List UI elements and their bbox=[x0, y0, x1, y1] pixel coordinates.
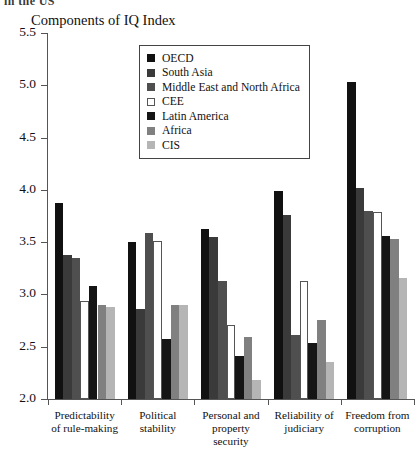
x-tick bbox=[268, 399, 269, 405]
legend-item: South Asia bbox=[147, 66, 302, 81]
x-axis-line bbox=[47, 399, 414, 400]
y-tick-5.0: 5.0 bbox=[41, 85, 48, 86]
bar bbox=[347, 82, 356, 399]
legend-label: CEE bbox=[162, 95, 184, 108]
y-tick-3.5: 3.5 bbox=[41, 242, 48, 243]
y-tick-label: 2.0 bbox=[19, 390, 36, 406]
bar bbox=[171, 305, 180, 399]
bar bbox=[89, 286, 98, 399]
category-label-line: corruption bbox=[341, 422, 414, 435]
chart-title: Components of IQ Index bbox=[31, 12, 176, 29]
bar bbox=[308, 343, 317, 399]
y-tick-label: 2.5 bbox=[19, 338, 36, 354]
legend-swatch-icon bbox=[147, 83, 155, 91]
bar bbox=[300, 281, 309, 399]
bar bbox=[274, 191, 283, 399]
legend-swatch-icon bbox=[147, 112, 155, 120]
legend-swatch-icon bbox=[147, 69, 155, 77]
category-label: Freedom fromcorruption bbox=[341, 409, 414, 435]
legend-item: CEE bbox=[147, 95, 302, 110]
category-label-line: stability bbox=[121, 422, 194, 435]
legend-item: OECD bbox=[147, 51, 302, 66]
bar bbox=[80, 301, 89, 399]
bar bbox=[136, 309, 145, 399]
bar bbox=[317, 320, 326, 399]
chart-page: in the US Components of IQ Index 5.55.04… bbox=[0, 0, 419, 460]
category-label-line: judiciary bbox=[268, 422, 341, 435]
legend-label: OECD bbox=[162, 52, 194, 65]
legend-item: CIS bbox=[147, 138, 302, 153]
x-tick bbox=[341, 399, 342, 405]
bar bbox=[106, 307, 115, 399]
legend-label: South Asia bbox=[162, 66, 213, 79]
bar-group bbox=[341, 33, 414, 399]
legend-label: Africa bbox=[162, 124, 192, 137]
legend-swatch-icon bbox=[147, 98, 155, 106]
bar bbox=[291, 335, 300, 399]
bar bbox=[201, 229, 210, 399]
category-label: Reliability ofjudiciary bbox=[268, 409, 341, 435]
bar bbox=[399, 278, 408, 399]
legend-label: CIS bbox=[162, 139, 180, 152]
y-tick-4.0: 4.0 bbox=[41, 190, 48, 191]
category-label-line: Political bbox=[121, 409, 194, 422]
category-label-line: of rule-making bbox=[48, 422, 121, 435]
y-tick-4.5: 4.5 bbox=[41, 138, 48, 139]
y-tick-2.0: 2.0 bbox=[41, 399, 48, 400]
legend-label: Middle East and North Africa bbox=[162, 81, 300, 94]
bar bbox=[98, 305, 107, 399]
y-tick-label: 3.5 bbox=[19, 233, 36, 249]
bar bbox=[373, 212, 382, 399]
y-tick-label: 4.5 bbox=[19, 129, 36, 145]
y-tick-2.5: 2.5 bbox=[41, 347, 48, 348]
bar bbox=[283, 215, 292, 399]
y-tick-3.0: 3.0 bbox=[41, 294, 48, 295]
legend-swatch-icon bbox=[147, 127, 155, 135]
legend-item: Africa bbox=[147, 124, 302, 139]
bar bbox=[55, 203, 64, 399]
bar bbox=[227, 325, 236, 399]
bar bbox=[162, 339, 171, 399]
legend-item: Latin America bbox=[147, 109, 302, 124]
category-label: Politicalstability bbox=[121, 409, 194, 435]
category-label-line: property security bbox=[194, 422, 267, 448]
bar bbox=[153, 241, 162, 399]
category-label: Personal andproperty security bbox=[194, 409, 267, 448]
bar bbox=[326, 362, 335, 399]
bar bbox=[72, 258, 81, 399]
bar bbox=[209, 237, 218, 399]
y-tick-label: 5.0 bbox=[19, 76, 36, 92]
bar bbox=[382, 236, 391, 399]
y-tick-5.5: 5.5 bbox=[41, 33, 48, 34]
legend-swatch-icon bbox=[147, 141, 155, 149]
y-tick-label: 4.0 bbox=[19, 181, 36, 197]
y-tick-label: 3.0 bbox=[19, 285, 36, 301]
bar bbox=[63, 255, 72, 399]
bar bbox=[244, 337, 253, 399]
bar bbox=[145, 233, 154, 399]
x-tick bbox=[194, 399, 195, 405]
category-label-line: Personal and bbox=[194, 409, 267, 422]
legend-swatch-icon bbox=[147, 54, 155, 62]
category-label-line: Freedom from bbox=[341, 409, 414, 422]
x-tick bbox=[121, 399, 122, 405]
bar-group bbox=[48, 33, 121, 399]
chart-legend: OECDSouth AsiaMiddle East and North Afri… bbox=[139, 45, 310, 159]
category-label-line: Predictability bbox=[48, 409, 121, 422]
x-tick bbox=[414, 399, 415, 405]
bar bbox=[390, 239, 399, 399]
clipped-page-header: in the US bbox=[4, 0, 55, 6]
legend-item: Middle East and North Africa bbox=[147, 80, 302, 95]
category-label-line: Reliability of bbox=[268, 409, 341, 422]
bar bbox=[179, 305, 188, 399]
bar bbox=[128, 242, 137, 399]
bar bbox=[252, 380, 261, 399]
bar bbox=[218, 281, 227, 399]
x-tick bbox=[48, 399, 49, 405]
bar bbox=[364, 211, 373, 399]
bar bbox=[356, 188, 365, 399]
legend-label: Latin America bbox=[162, 110, 229, 123]
category-label: Predictabilityof rule-making bbox=[48, 409, 121, 435]
bar bbox=[235, 356, 244, 399]
y-tick-label: 5.5 bbox=[19, 24, 36, 40]
